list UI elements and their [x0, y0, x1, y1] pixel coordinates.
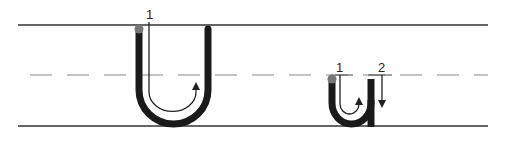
stroke-number-label-1: 1 — [336, 60, 343, 75]
lowercase-u-stroke — [332, 79, 371, 124]
stroke-number-label: 1 — [146, 7, 153, 22]
start-dot-icon — [328, 75, 337, 84]
stroke-number-label-2: 2 — [378, 60, 385, 75]
stroke-direction-arrow-icon — [149, 22, 196, 111]
handwriting-guide: 1 1 2 — [0, 0, 521, 144]
start-dot-icon — [135, 25, 144, 34]
stroke-1-direction-arrow-icon — [340, 75, 359, 114]
lowercase-u-letter: 1 2 — [328, 60, 393, 127]
